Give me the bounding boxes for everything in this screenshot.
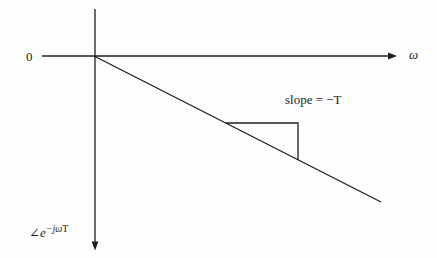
angle-symbol: ∠ — [29, 225, 40, 240]
exp-superscript-italic: −jω — [46, 223, 63, 234]
x-axis-label: ω — [409, 47, 418, 62]
y-axis-variable-label: ∠e−jωT — [29, 223, 68, 240]
phase-plot-figure: 0 ω slope = −T ∠e−jωT — [0, 0, 437, 258]
slope-annotation: slope = −T — [285, 92, 342, 107]
origin-label: 0 — [26, 49, 33, 64]
phase-line — [94, 56, 381, 202]
phase-plot-canvas: 0 ω slope = −T ∠e−jωT — [0, 0, 437, 258]
y-axis-arrowhead-icon — [92, 242, 99, 251]
x-axis-arrowhead-icon — [388, 53, 397, 60]
exp-superscript-roman: T — [62, 223, 68, 234]
